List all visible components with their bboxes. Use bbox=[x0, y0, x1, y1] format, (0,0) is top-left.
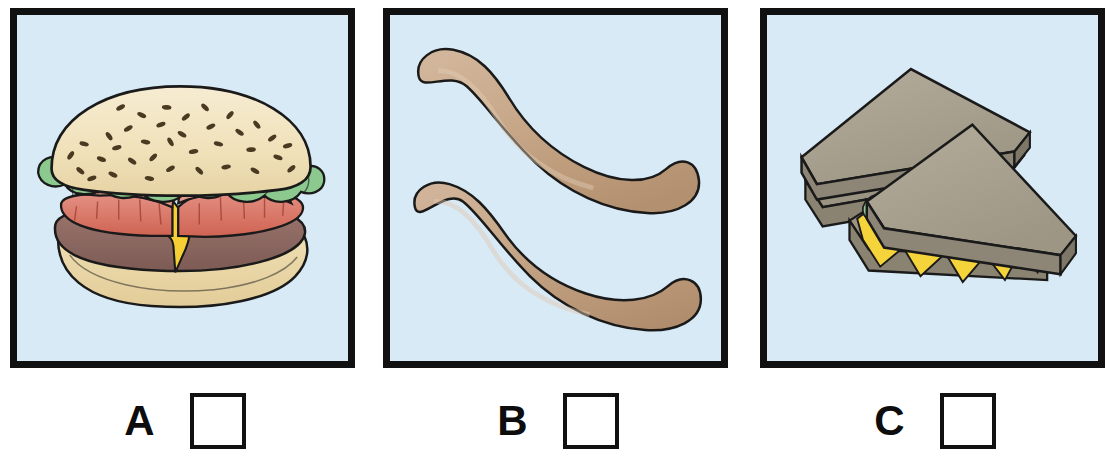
image-panel-c bbox=[760, 8, 1105, 368]
answer-row-a: A bbox=[10, 386, 355, 456]
worksheet-page: A B C bbox=[0, 0, 1116, 465]
answer-checkbox-c[interactable] bbox=[940, 393, 996, 449]
answer-row-b: B bbox=[383, 386, 728, 456]
answer-letter-b: B bbox=[493, 400, 533, 442]
answer-letter-c: C bbox=[870, 400, 910, 442]
answer-row-c: C bbox=[760, 386, 1105, 456]
answer-checkbox-b[interactable] bbox=[563, 393, 619, 449]
answer-letter-a: A bbox=[120, 400, 160, 442]
image-panel-b bbox=[383, 8, 728, 368]
answer-checkbox-a[interactable] bbox=[190, 393, 246, 449]
image-panel-a bbox=[10, 8, 355, 368]
sandwiches-illustration bbox=[767, 15, 1098, 361]
hamburger-illustration bbox=[17, 15, 348, 361]
sausages-illustration bbox=[390, 15, 721, 361]
